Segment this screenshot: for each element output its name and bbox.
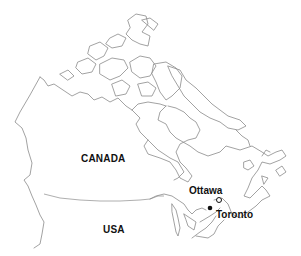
- east-coast-detail: [236, 130, 286, 184]
- hudson-bay-outline: [132, 102, 200, 182]
- toronto-label: Toronto: [216, 210, 253, 220]
- great-lakes: [150, 194, 224, 238]
- usa-label: USA: [103, 225, 125, 235]
- canada-map: [0, 0, 301, 256]
- ottawa-marker-icon: [217, 198, 222, 203]
- arctic-islands: [60, 14, 246, 130]
- canada-label: CANADA: [81, 154, 126, 164]
- toronto-marker-icon: [208, 206, 213, 211]
- ottawa-label: Ottawa: [189, 186, 222, 196]
- us-canada-border: [44, 194, 164, 201]
